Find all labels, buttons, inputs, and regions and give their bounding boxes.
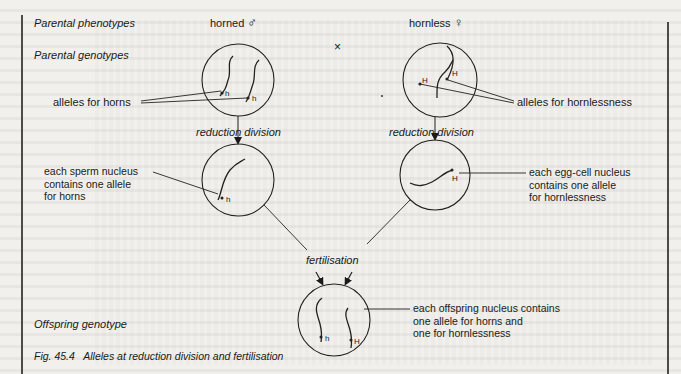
fertilisation-line-left: [264, 205, 307, 250]
label-parental-genotypes: Parental genotypes: [34, 49, 129, 62]
svg-text:H: H: [354, 337, 360, 346]
svg-text:h: h: [226, 195, 230, 204]
label-parental-phenotypes: Parental phenotypes: [34, 17, 135, 30]
label-reduction-division-right: reduction division: [389, 126, 474, 139]
svg-text:h: h: [252, 94, 256, 103]
fertilisation-line-right: [367, 200, 410, 244]
label-alleles-for-horns: alleles for horns: [53, 96, 131, 109]
fertilisation-arrow-right: [346, 272, 352, 283]
svg-text:H: H: [452, 69, 458, 78]
label-egg-nucleus: each egg-cell nucleus contains one allel…: [529, 166, 631, 204]
figure-caption: Fig. 45.4 Alleles at reduction division …: [34, 350, 283, 363]
svg-text:h: h: [325, 334, 329, 343]
male-phenotype: horned ♂: [210, 16, 257, 30]
label-offspring-nucleus: each offspring nucleus contains one alle…: [413, 302, 560, 340]
svg-text:h: h: [225, 89, 229, 98]
sperm-cell: h: [202, 144, 274, 216]
label-alleles-for-hornlessness: alleles for hornlessness: [517, 96, 632, 109]
female-symbol-icon: ♀: [454, 15, 464, 30]
label-reduction-division-left: reduction division: [196, 126, 281, 139]
male-symbol-icon: ♂: [247, 15, 257, 30]
male-parent-cell: h h: [202, 44, 274, 116]
cross-symbol: ×: [334, 41, 341, 54]
svg-text:H: H: [452, 174, 458, 183]
scan-speck: [381, 95, 383, 97]
label-fertilisation: fertilisation: [306, 254, 359, 267]
label-sperm-nucleus: each sperm nucleus contains one allele f…: [44, 165, 138, 203]
pointer-hornless-2: [448, 80, 514, 101]
female-phenotype-text: hornless: [409, 17, 451, 29]
pointer-hornless-1: [420, 84, 514, 103]
female-phenotype: hornless ♀: [409, 16, 463, 30]
svg-text:H: H: [422, 76, 428, 85]
offspring-cell: h H: [298, 284, 370, 356]
female-parent-cell: H H: [403, 43, 477, 117]
fertilisation-arrow-left: [316, 272, 322, 283]
label-offspring-genotype: Offspring genotype: [34, 318, 127, 331]
pointer-sperm: [153, 172, 218, 194]
male-phenotype-text: horned: [210, 17, 244, 29]
egg-cell: H: [400, 140, 470, 210]
